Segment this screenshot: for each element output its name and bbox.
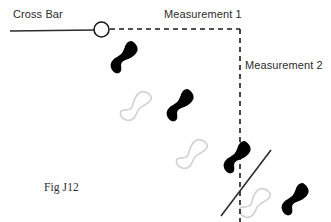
footprint-right-7 xyxy=(278,181,312,217)
measurement-2-label: Measurement 2 xyxy=(245,59,323,71)
footprint-left-6 xyxy=(238,185,272,221)
footprint-right-5 xyxy=(220,139,254,175)
footprint-outline-group xyxy=(119,88,272,221)
cross-bar-label: Cross Bar xyxy=(13,8,63,20)
cross-bar-line xyxy=(10,30,95,31)
figure-caption: Fig J12 xyxy=(44,181,79,193)
footprint-left-2 xyxy=(119,88,153,124)
footprint-right-1 xyxy=(107,39,141,75)
footprint-right-3 xyxy=(163,87,197,123)
measurement-1-label: Measurement 1 xyxy=(164,8,242,20)
footprint-left-4 xyxy=(175,136,209,172)
footprint-gait-figure: Cross Bar Measurement 1 Measurement 2 Fi… xyxy=(0,0,331,222)
cross-bar-node xyxy=(94,22,109,37)
